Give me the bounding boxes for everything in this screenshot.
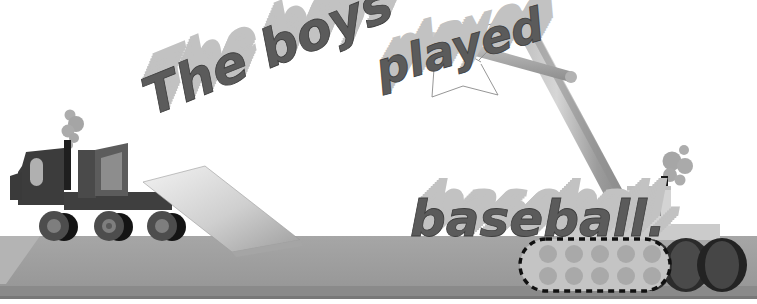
truck-headboard-inner bbox=[101, 152, 122, 190]
flatbed-truck bbox=[10, 110, 186, 242]
truck-wheels bbox=[39, 211, 186, 241]
truck-cab-back bbox=[78, 150, 96, 198]
truck-cab-nose bbox=[10, 172, 22, 200]
ground-front-shadow bbox=[0, 296, 757, 299]
illustration-scene: The boys The boys The boys The boys The … bbox=[0, 0, 757, 304]
word-face-baseball: baseball. bbox=[410, 190, 666, 248]
word-face-the-boys: The boys bbox=[134, 0, 401, 127]
truck-cab-window bbox=[30, 158, 43, 186]
scene-canvas: The boys The boys The boys The boys The … bbox=[0, 0, 757, 304]
truck-exhaust-stack bbox=[64, 140, 71, 190]
word-baseball: baseball. baseball. baseball. baseball. … bbox=[410, 170, 686, 248]
